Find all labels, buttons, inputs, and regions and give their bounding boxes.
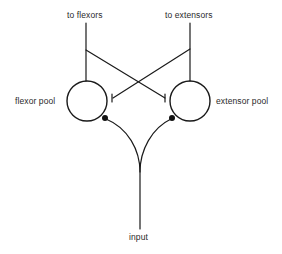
- flexor-to-extensor-inhibitory-line: [86, 50, 165, 98]
- flexor-pool-circle: [67, 81, 107, 121]
- input-label: input: [129, 233, 148, 242]
- excitatory-synapse-on-flexor-icon: [102, 115, 108, 121]
- input-to-flexor-branch: [106, 119, 140, 229]
- input-to-extensor-branch: [140, 119, 171, 172]
- extensor-pool-label: extensor pool: [216, 97, 268, 106]
- excitatory-synapse-on-extensor-icon: [169, 115, 175, 121]
- neural-circuit-diagram: [0, 0, 282, 254]
- to-flexors-label: to flexors: [67, 11, 103, 20]
- to-extensors-label: to extensors: [165, 11, 213, 20]
- flexor-pool-label: flexor pool: [15, 97, 55, 106]
- extensor-pool-circle: [170, 81, 210, 121]
